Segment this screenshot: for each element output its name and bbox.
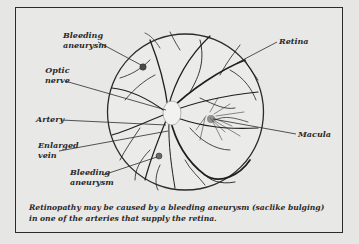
optic-disc	[163, 101, 181, 125]
label-line: aneurysm	[63, 41, 107, 51]
label-enlarged-vein: Enlarged vein	[38, 141, 79, 160]
label-optic-nerve: Optic nerve	[45, 66, 70, 85]
retina-circle	[108, 34, 264, 190]
label-bleeding-aneurysm-top: Bleeding aneurysm	[63, 31, 107, 50]
label-line: vein	[38, 151, 79, 161]
figure-caption: Retinopathy may be caused by a bleeding …	[29, 203, 329, 224]
label-line: aneurysm	[70, 178, 114, 188]
label-line: nerve	[45, 76, 70, 86]
leader-retina	[237, 42, 277, 63]
aneurysm-bottom	[156, 153, 162, 159]
label-macula: Macula	[298, 130, 331, 140]
label-bleeding-aneurysm-bottom: Bleeding aneurysm	[70, 168, 114, 187]
label-artery: Artery	[36, 115, 64, 125]
label-retina: Retina	[279, 37, 308, 47]
